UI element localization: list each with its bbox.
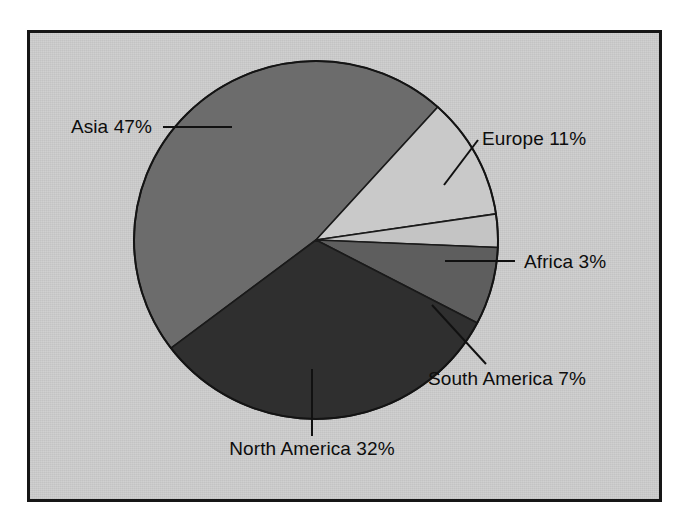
slice-label-europe: Europe 11% (482, 128, 586, 149)
slice-label-south-america: South America 7% (428, 368, 586, 389)
slice-label-africa: Africa 3% (524, 251, 606, 272)
pie-slices-layer (134, 61, 498, 419)
pie-chart: Asia 47%Europe 11%Africa 3%South America… (0, 0, 684, 532)
figure-canvas: Asia 47%Europe 11%Africa 3%South America… (0, 0, 684, 532)
slice-label-asia: Asia 47% (71, 116, 152, 137)
slice-label-north-america: North America 32% (229, 438, 394, 459)
